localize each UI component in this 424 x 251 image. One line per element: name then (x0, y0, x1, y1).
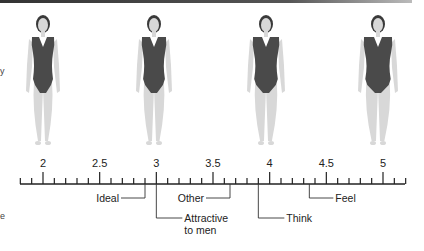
callout-ideal: Ideal (96, 192, 119, 204)
body-silhouette-5 (354, 13, 402, 148)
top-border (0, 0, 412, 3)
tick-label: 5 (380, 157, 386, 169)
callout-feel: Feel (335, 192, 355, 204)
body-silhouette-2 (19, 13, 67, 148)
tick-label: 2.5 (92, 157, 107, 169)
callout-think: Think (286, 212, 312, 224)
tick-label: 4.5 (319, 157, 334, 169)
callout-other: Other (178, 192, 204, 204)
cropped-text-fragment: e (0, 211, 5, 221)
tick-label: 3.5 (205, 157, 220, 169)
tick-label: 2 (40, 157, 46, 169)
tick-label: 3 (153, 157, 159, 169)
body-silhouette-4 (242, 13, 290, 148)
tick-label: 4 (267, 157, 273, 169)
cropped-text-fragment: y (0, 66, 5, 76)
body-silhouette-3 (130, 13, 178, 148)
callout-attractive-to-men: Attractiveto men (184, 212, 228, 236)
